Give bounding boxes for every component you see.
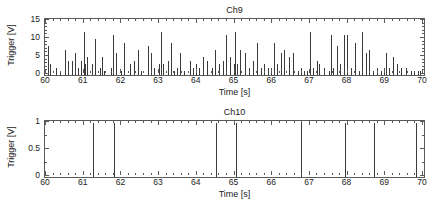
y-tick-label-wrap: 0 <box>0 175 40 184</box>
x-tick-major <box>158 171 159 175</box>
x-tick-label: 63 <box>153 178 162 187</box>
x-tick-minor <box>188 71 189 73</box>
x-tick-minor <box>407 121 408 123</box>
x-tick-minor <box>392 19 393 21</box>
x-tick-minor <box>113 19 114 21</box>
x-tick-minor <box>377 121 378 123</box>
x-tick-minor <box>316 71 317 73</box>
y-tick-label-wrap: 10 <box>0 37 40 46</box>
x-tick-minor <box>218 121 219 123</box>
x-tick-label: 60 <box>40 76 49 85</box>
x-tick-minor <box>256 71 257 73</box>
data-spike <box>138 50 139 75</box>
x-tick-minor <box>75 121 76 123</box>
y-tick-label: 5 <box>0 51 40 60</box>
y-tick-label: 0 <box>0 69 40 78</box>
data-spike <box>301 123 302 177</box>
x-tick-major <box>271 171 272 175</box>
x-tick-minor <box>332 173 333 175</box>
x-tick-minor <box>113 121 114 123</box>
y-tick-minor <box>45 33 47 34</box>
data-spike <box>199 68 200 75</box>
x-tick-major <box>158 121 159 125</box>
data-spike <box>114 123 115 177</box>
x-tick-major <box>234 121 235 125</box>
x-tick-major <box>347 171 348 175</box>
data-spike <box>87 57 88 75</box>
x-tick-minor <box>279 19 280 21</box>
y-tick-minor <box>422 30 424 31</box>
x-tick-minor <box>339 173 340 175</box>
x-tick-major <box>45 121 46 125</box>
panel-ch10: Ch10 Trigger [V] 00.51 60616263646566676… <box>0 107 447 213</box>
data-spike <box>72 61 73 75</box>
data-spike <box>48 46 49 75</box>
x-tick-major <box>309 121 310 125</box>
data-spike <box>93 123 94 177</box>
x-tick-minor <box>249 121 250 123</box>
x-tick-minor <box>377 71 378 73</box>
x-tick-minor <box>166 121 167 123</box>
x-tick-major <box>271 69 272 73</box>
y-tick-minor <box>45 51 47 52</box>
data-spike <box>344 35 345 75</box>
x-tick-minor <box>151 121 152 123</box>
data-spike <box>171 43 172 75</box>
y-tick-minor <box>422 51 424 52</box>
data-spike <box>281 53 282 75</box>
x-tick-minor <box>316 173 317 175</box>
y-tick-minor <box>45 48 47 49</box>
y-tick-minor <box>45 62 47 63</box>
x-tick-minor <box>324 173 325 175</box>
x-tick-minor <box>369 19 370 21</box>
x-tick-minor <box>75 19 76 21</box>
data-spike <box>141 71 142 75</box>
data-spike <box>65 50 66 75</box>
x-tick-minor <box>173 173 174 175</box>
x-tick-major <box>45 69 46 73</box>
x-tick-minor <box>286 173 287 175</box>
data-spike <box>329 71 330 75</box>
y-tick-major <box>45 55 49 56</box>
x-tick-major <box>196 69 197 73</box>
x-tick-minor <box>256 173 257 175</box>
x-tick-label: 62 <box>116 178 125 187</box>
data-spike <box>284 50 285 75</box>
y-tick-label-wrap: 5 <box>0 55 40 64</box>
x-tick-minor <box>399 19 400 21</box>
x-tick-minor <box>392 173 393 175</box>
data-spike <box>215 50 216 75</box>
data-spike <box>374 123 375 177</box>
y-tick-minor <box>422 33 424 34</box>
x-tick-minor <box>53 19 54 21</box>
x-tick-minor <box>211 121 212 123</box>
x-tick-minor <box>407 71 408 73</box>
data-spike <box>212 68 213 75</box>
x-tick-minor <box>181 19 182 21</box>
x-tick-minor <box>166 173 167 175</box>
x-tick-minor <box>241 173 242 175</box>
x-tick-minor <box>68 173 69 175</box>
x-tick-major <box>384 19 385 23</box>
x-tick-major <box>384 69 385 73</box>
x-tick-minor <box>301 19 302 21</box>
x-tick-major <box>83 19 84 23</box>
y-tick-label: 0 <box>0 171 40 180</box>
x-tick-minor <box>241 121 242 123</box>
data-spike <box>331 35 332 75</box>
x-tick-major <box>309 19 310 23</box>
data-spike <box>207 61 208 75</box>
x-tick-minor <box>75 71 76 73</box>
y-tick-major <box>420 55 424 56</box>
data-spike <box>355 43 356 75</box>
x-axis-label-ch10: Time [s] <box>44 189 425 199</box>
data-spike <box>81 61 82 75</box>
data-spike <box>340 64 341 75</box>
data-spike <box>154 68 155 75</box>
data-spike <box>168 61 169 75</box>
x-tick-label: 68 <box>342 178 351 187</box>
data-spike <box>277 64 278 75</box>
x-tick-minor <box>211 71 212 73</box>
data-spike <box>235 32 236 75</box>
x-tick-major <box>234 69 235 73</box>
